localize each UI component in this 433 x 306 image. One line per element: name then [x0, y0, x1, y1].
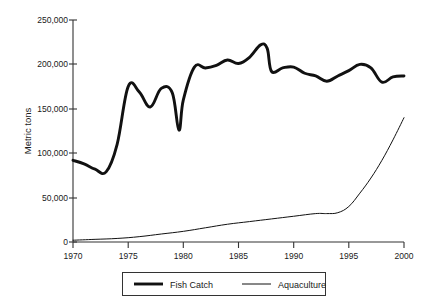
y-axis-title: Metric tons — [22, 108, 33, 155]
y-tick-label: 0 — [63, 237, 68, 247]
y-tick-label: 50,000 — [42, 193, 68, 203]
series-line-aquaculture — [73, 118, 404, 241]
x-tick-label: 1975 — [119, 251, 138, 261]
x-tick-label: 2000 — [395, 251, 414, 261]
y-tick-label: 150,000 — [37, 104, 68, 114]
y-axis-tick-labels: 250,000 200,000 150,000 100,000 50,000 0 — [37, 15, 68, 247]
y-axis — [69, 20, 77, 242]
legend-label-aquaculture: Aquaculture — [278, 280, 326, 290]
x-tick-label: 1995 — [339, 251, 358, 261]
legend-label-fish-catch: Fish Catch — [170, 280, 213, 290]
fish-catch-aquaculture-line-chart: Metric tons 250,000 200,000 150,000 100,… — [0, 0, 433, 306]
y-tick-label: 200,000 — [37, 59, 68, 69]
y-tick-label: 250,000 — [37, 15, 68, 25]
x-tick-label: 1980 — [174, 251, 193, 261]
x-axis — [73, 242, 404, 248]
series-line-fish-catch — [73, 44, 404, 174]
y-tick-label: 100,000 — [37, 148, 68, 158]
x-tick-label: 1990 — [284, 251, 303, 261]
legend: Fish Catch Aquaculture — [123, 273, 327, 296]
x-tick-label: 1985 — [229, 251, 248, 261]
x-tick-label: 1970 — [64, 251, 83, 261]
x-axis-tick-labels: 1970 1975 1980 1985 1990 1995 2000 — [64, 251, 414, 261]
